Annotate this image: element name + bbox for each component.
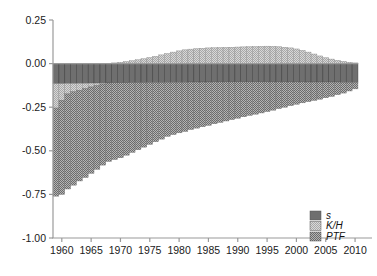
bar-segment-ptf: [229, 82, 235, 120]
bar-segment-s: [118, 64, 124, 83]
bar-segment-kh: [141, 59, 147, 64]
bar-segment-ptf: [305, 82, 311, 102]
bar-segment-kh: [182, 50, 188, 64]
bar-segment-ptf: [59, 100, 65, 194]
bar-segment-kh: [200, 48, 206, 63]
bar-segment-ptf: [311, 82, 317, 100]
bar-segment-kh: [53, 84, 59, 108]
bar-segment-kh: [258, 46, 264, 63]
bar-segment-s: [299, 64, 305, 82]
bar-segment-ptf: [65, 94, 71, 189]
bar-segment-kh: [235, 47, 241, 64]
bar-segment-s: [323, 64, 329, 82]
y-tick-label: 0.00: [26, 57, 47, 69]
bar-segment-s: [352, 64, 358, 83]
bar-segment-kh: [329, 59, 335, 64]
bar-segment-ptf: [329, 82, 335, 96]
bar-segment-kh: [65, 83, 71, 93]
bar-segment-kh: [59, 84, 65, 101]
bar-segment-s: [71, 64, 77, 84]
bar-segment-s: [59, 64, 65, 84]
bar-segment-s: [165, 64, 171, 83]
bar-segment-s: [264, 64, 270, 82]
bar-segment-ptf: [235, 82, 241, 118]
bar-segment-s: [82, 64, 88, 84]
bar-segment-ptf: [153, 82, 159, 141]
bar-segment-kh: [165, 53, 171, 63]
y-tick-label: 0.25: [26, 14, 47, 26]
bar-segment-s: [317, 64, 323, 82]
bar-segment-ptf: [223, 82, 229, 121]
legend-swatch-k-h: [310, 222, 321, 231]
bar-segment-s: [182, 64, 188, 83]
bar-segment-kh: [282, 47, 288, 63]
bar-segment-ptf: [241, 82, 247, 117]
bar-segment-s: [247, 64, 253, 82]
bar-segment-ptf: [252, 82, 258, 114]
bar-segment-s: [241, 64, 247, 82]
x-tick-label: 2005: [314, 244, 338, 256]
bar-segment-ptf: [194, 82, 200, 128]
bar-segment-ptf: [176, 82, 182, 133]
x-tick-label: 2000: [285, 244, 309, 256]
bar-segment-s: [258, 64, 264, 82]
bar-segment-ptf: [299, 82, 305, 103]
bar-segment-kh: [194, 49, 200, 64]
bar-segment-ptf: [211, 82, 217, 124]
bar-segment-s: [65, 64, 71, 84]
bar-segment-kh: [147, 58, 153, 64]
stacked-bar-chart: 0.250.00-0.25-0.50-0.75-1.00 19601965197…: [0, 0, 377, 276]
bar-segment-ptf: [129, 83, 135, 153]
bar-segment-kh: [71, 83, 77, 91]
bar-segment-s: [188, 64, 194, 82]
bar-segment-s: [305, 64, 311, 82]
bar-segment-kh: [206, 48, 212, 64]
bar-segment-ptf: [270, 82, 276, 110]
bar-segment-ptf: [106, 83, 112, 161]
bar-segment-s: [159, 64, 165, 83]
legend-swatch-s: [310, 211, 321, 220]
bar-segment-s: [123, 64, 129, 83]
bar-segment-ptf: [335, 82, 341, 95]
bar-segment-s: [135, 64, 141, 83]
bar-segment-s: [153, 64, 159, 83]
bar-segment-ptf: [94, 86, 100, 170]
bar-segment-ptf: [141, 83, 147, 148]
bar-segment-ptf: [276, 82, 282, 109]
bar-segment-kh: [153, 56, 159, 63]
bar-segment-kh: [229, 47, 235, 63]
x-axis: 1960196519701975198019851990199520002005…: [50, 238, 372, 256]
bar-segment-kh: [288, 48, 294, 64]
legend-label: PTF: [326, 231, 346, 242]
bar-segment-s: [335, 64, 341, 82]
x-tick-label: 1995: [255, 244, 279, 256]
bar-segment-s: [235, 64, 241, 82]
bar-segment-ptf: [100, 84, 106, 165]
y-tick-label: -0.75: [22, 188, 46, 200]
bar-segment-ptf: [247, 82, 253, 115]
bar-segment-s: [141, 64, 147, 83]
bar-segment-ptf: [53, 108, 59, 196]
bar-segment-ptf: [118, 83, 124, 158]
bar-segment-kh: [294, 49, 300, 64]
x-tick-label: 1975: [138, 244, 162, 256]
bar-segment-ptf: [159, 82, 165, 139]
bar-segment-s: [206, 64, 212, 82]
bar-segment-s: [346, 64, 352, 83]
bar-segment-ptf: [112, 83, 118, 160]
legend-label: K/H: [326, 220, 343, 231]
bar-segment-ptf: [188, 82, 194, 129]
bar-segment-s: [170, 64, 176, 83]
bar-segment-ptf: [340, 82, 346, 93]
bar-segment-s: [217, 64, 223, 82]
bar-segment-kh: [317, 56, 323, 64]
bar-segment-ptf: [200, 82, 206, 127]
bar-segment-kh: [305, 52, 311, 64]
bar-segment-ptf: [206, 82, 212, 125]
x-tick-label: 1970: [109, 244, 133, 256]
bar-segment-s: [88, 64, 94, 84]
bar-segment-kh: [276, 47, 282, 64]
bar-segment-kh: [217, 48, 223, 64]
bar-segment-ptf: [182, 82, 188, 131]
bar-segment-s: [282, 64, 288, 82]
